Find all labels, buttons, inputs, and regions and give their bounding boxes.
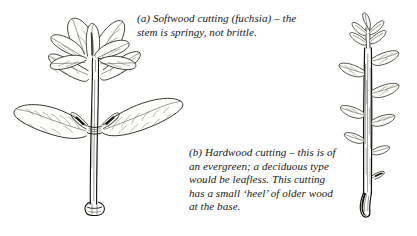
hardwood-leaf-left-upper bbox=[339, 63, 364, 77]
hardwood-leaf-right-lower bbox=[372, 114, 395, 126]
hardwood-stem bbox=[363, 48, 371, 194]
softwood-node bbox=[87, 126, 102, 134]
hardwood-leaf-left-lower bbox=[344, 133, 363, 144]
caption-hardwood-cutting: (b) Hardwood cutting – this is of an eve… bbox=[189, 146, 341, 214]
softwood-cutting-illustration bbox=[8, 8, 188, 234]
softwood-basal-node bbox=[85, 202, 104, 216]
softwood-apex-rosette bbox=[50, 18, 136, 69]
softwood-leaf-right bbox=[103, 98, 183, 135]
hardwood-cutting-illustration bbox=[330, 8, 416, 230]
softwood-upper-stem bbox=[92, 58, 98, 72]
caption-softwood-cutting: (a) Softwood cutting (fuchsia) – the ste… bbox=[137, 12, 305, 39]
hardwood-heel bbox=[360, 192, 371, 217]
hardwood-bud bbox=[372, 171, 385, 179]
softwood-stem bbox=[90, 72, 98, 204]
hardwood-leaf-left-mid bbox=[340, 106, 364, 119]
figure-page: (a) Softwood cutting (fuchsia) – the ste… bbox=[0, 0, 417, 236]
hardwood-leaf-right-mid bbox=[372, 83, 399, 97]
hardwood-shoot-tip bbox=[350, 13, 386, 48]
hardwood-leaf-right-bottom bbox=[372, 146, 390, 155]
hardwood-leaf-right-upper bbox=[372, 51, 399, 66]
